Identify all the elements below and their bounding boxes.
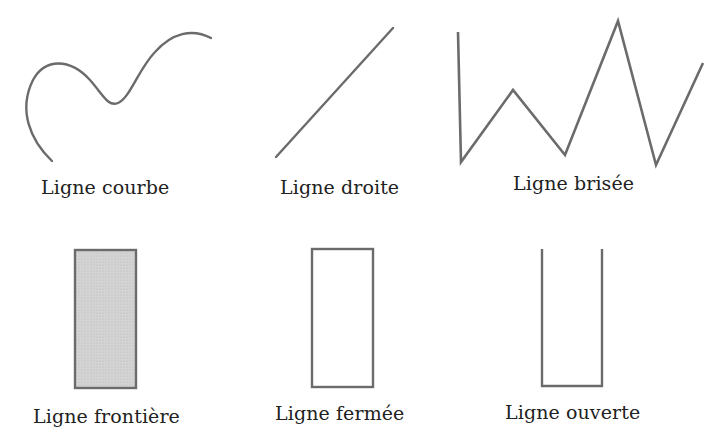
broken-line-shape [458, 21, 703, 165]
label-straight: Ligne droite [280, 176, 399, 198]
diagram-shapes [0, 0, 721, 430]
open-line-shape [542, 249, 602, 386]
lines-diagram: Ligne courbe Ligne droite Ligne brisée L… [0, 0, 721, 430]
label-broken: Ligne brisée [513, 172, 634, 194]
straight-line-shape [276, 28, 393, 157]
label-open: Ligne ouverte [505, 401, 640, 423]
frontier-line-shape [75, 250, 136, 388]
closed-line-shape [312, 249, 373, 387]
label-closed: Ligne fermée [275, 402, 404, 424]
curve-line-shape [26, 33, 211, 161]
label-curve: Ligne courbe [41, 176, 169, 198]
label-frontier: Ligne frontière [33, 405, 180, 427]
